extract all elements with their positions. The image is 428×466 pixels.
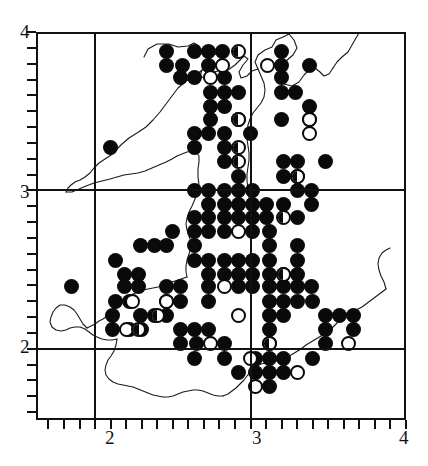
filled-circle [305,294,320,309]
half-fill [152,308,158,323]
filled-circle [262,294,277,309]
filled-circle [105,322,120,337]
filled-circle [203,112,218,127]
open-circle [260,58,275,73]
x-axis-tick [389,420,391,429]
filled-circle [274,112,289,127]
filled-circle [187,126,202,141]
y-axis-tick [27,63,36,65]
x-axis-tick [358,420,360,429]
y-axis-tick [27,47,36,49]
filled-circle [332,308,347,323]
open-circle [290,365,305,380]
filled-circle [217,140,232,155]
half-fill [233,154,239,169]
filled-circle [217,154,232,169]
filled-circle [201,126,216,141]
filled-circle [231,210,246,225]
half-filled-circle [231,140,246,155]
x-axis-tick [203,420,205,429]
half-fill [233,140,239,155]
filled-circle [231,279,246,294]
half-filled-circle [276,210,291,225]
plot-area [36,32,406,420]
y-axis-tick [27,174,36,176]
y-axis-tick [27,284,36,286]
filled-circle [108,294,123,309]
half-fill [292,169,298,184]
y-axis-tick [27,379,36,381]
filled-circle [274,44,289,59]
y-axis-tick [27,395,36,397]
y-axis-tick [27,94,36,96]
filled-circle [105,308,120,323]
filled-circle [259,210,274,225]
y-axis-label-2: 2 [20,337,30,356]
filled-circle [302,58,317,73]
half-filled-circle [231,112,246,127]
y-axis-tick [27,142,36,144]
filled-circle [290,154,305,169]
filled-circle [262,224,277,239]
filled-circle [346,308,361,323]
filled-circle [245,279,260,294]
y-axis-tick [27,332,36,334]
y-axis-tick [27,253,36,255]
filled-circle [305,351,320,366]
filled-circle [201,294,216,309]
x-axis-tick [63,420,65,429]
open-circle [159,294,174,309]
filled-circle [288,85,303,100]
filled-circle [201,44,216,59]
x-axis-tick [265,420,267,429]
gridline-horizontal [36,189,406,191]
x-axis-tick [405,420,407,429]
filled-circle [187,210,202,225]
filled-circle [346,322,361,337]
x-axis-tick [250,420,252,429]
gridline-vertical [94,32,96,420]
x-axis-tick [312,420,314,429]
filled-circle [217,224,232,239]
y-axis-tick [27,364,36,366]
filled-circle [276,308,291,323]
filled-circle [133,238,148,253]
filled-circle [290,294,305,309]
x-axis-tick [47,420,49,429]
filled-circle [217,210,232,225]
x-axis-label-2: 2 [105,428,115,447]
half-fill [233,112,239,127]
filled-circle [262,253,277,268]
filled-circle [245,224,260,239]
filled-circle [304,197,319,212]
filled-circle [276,294,291,309]
y-axis-tick [27,126,36,128]
filled-circle [274,85,289,100]
y-axis-tick [27,31,36,33]
filled-circle [318,322,333,337]
filled-circle [276,169,291,184]
y-axis-tick [27,158,36,160]
filled-circle [318,154,333,169]
filled-circle [276,154,291,169]
y-axis-tick [27,316,36,318]
x-axis-tick [110,420,112,429]
gridline-vertical [250,32,252,420]
filled-circle [217,351,232,366]
filled-circle [159,58,174,73]
filled-circle [217,253,232,268]
gridline-horizontal [36,348,406,350]
half-filled-circle [276,267,291,282]
x-axis-tick [296,420,298,429]
filled-circle [203,85,218,100]
filled-circle [187,253,202,268]
filled-circle [201,210,216,225]
open-circle [215,58,230,73]
filled-circle [108,253,123,268]
filled-circle [290,238,305,253]
x-axis-tick [141,420,143,429]
open-circle [231,224,246,239]
filled-circle [231,253,246,268]
x-axis-tick [187,420,189,429]
filled-circle [276,365,291,380]
